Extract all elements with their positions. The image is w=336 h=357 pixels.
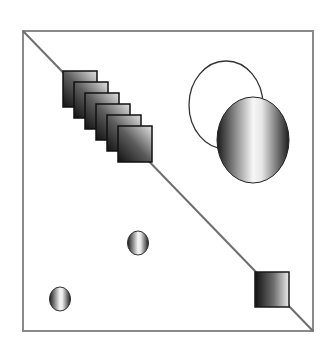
gradient-ellipse — [217, 97, 289, 183]
corner-gradient-square — [255, 272, 289, 307]
small-oval-lower-left — [50, 287, 71, 311]
square-cascade — [63, 71, 152, 162]
cascade-square — [118, 126, 152, 162]
small-oval-center — [128, 231, 149, 255]
diagram-canvas — [0, 0, 336, 357]
